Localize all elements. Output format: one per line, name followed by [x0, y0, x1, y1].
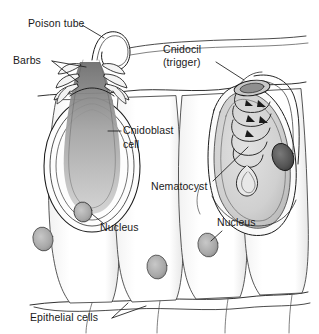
label-cnidoblast: Cnidoblast: [123, 124, 174, 137]
label-barbs: Barbs: [13, 54, 41, 67]
label-cnidoblast-cell: cell: [123, 138, 139, 151]
cnidocyte-diagram: Poison tube Barbs Cnidocil (trigger) Cni…: [0, 0, 319, 334]
label-nematocyst: Nematocyst: [151, 180, 207, 193]
label-cnidocil-trigger: (trigger): [163, 56, 201, 69]
leader-epithelial-a: [112, 303, 128, 318]
leader-poison-tube: [82, 25, 104, 38]
diagram-artwork: [0, 0, 319, 334]
label-cnidocil: Cnidocil: [163, 43, 201, 56]
poison-tube-extension: [129, 36, 306, 48]
label-epithelial-cells: Epithelial cells: [30, 311, 98, 324]
label-nucleus-left: Nucleus: [100, 221, 139, 234]
leader-cnidocil: [216, 62, 244, 80]
label-nucleus-right: Nucleus: [217, 216, 256, 229]
label-poison-tube: Poison tube: [28, 17, 85, 30]
leader-epithelial-b: [112, 306, 146, 318]
